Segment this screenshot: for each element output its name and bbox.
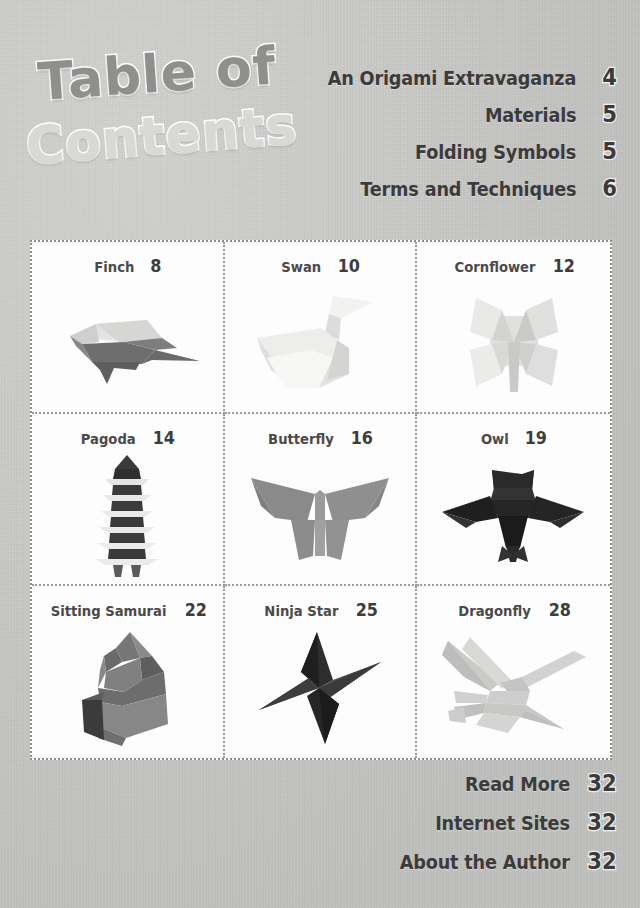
owl-origami-figure	[417, 450, 610, 580]
grid-cell-page: 25	[355, 600, 377, 620]
grid-cell-swan[interactable]: Swan 10	[225, 242, 418, 414]
project-grid: Finch 8 Swan 10	[30, 240, 612, 760]
grid-cell-page: 8	[150, 256, 161, 276]
toc-entry[interactable]: About the Author 32	[288, 848, 618, 874]
grid-cell-cornflower[interactable]: Cornflower 12	[417, 242, 610, 414]
grid-cell-butterfly[interactable]: Butterfly 16	[225, 414, 418, 586]
pagoda-origami-figure	[32, 450, 223, 580]
grid-cell-page: 22	[185, 600, 207, 620]
grid-cell-label: Ninja Star 25	[225, 600, 416, 620]
toc-entry[interactable]: Read More 32	[288, 770, 618, 796]
grid-cell-name: Pagoda	[81, 431, 136, 447]
grid-cell-label: Dragonfly 28	[417, 600, 610, 620]
dragonfly-origami-figure	[417, 622, 610, 754]
grid-cell-sitting-samurai[interactable]: Sitting Samurai 22	[32, 586, 225, 758]
cornflower-origami-figure	[417, 278, 610, 408]
grid-cell-name: Cornflower	[454, 259, 535, 275]
grid-cell-page: 12	[553, 256, 575, 276]
grid-cell-pagoda[interactable]: Pagoda 14	[32, 414, 225, 586]
toc-entry-label: Folding Symbols	[415, 141, 576, 163]
toc-entry-label: Internet Sites	[435, 812, 570, 834]
page-title: Table of Contents	[26, 52, 316, 212]
toc-entry-label: Read More	[465, 773, 570, 795]
grid-cell-name: Ninja Star	[264, 603, 338, 619]
grid-cell-label: Pagoda 14	[32, 428, 223, 448]
toc-entry[interactable]: An Origami Extravaganza 4	[288, 64, 618, 90]
toc-entry-page: 5	[593, 101, 617, 127]
page-title-line-1: Table of	[36, 35, 278, 111]
toc-entry-label: About the Author	[400, 851, 570, 873]
grid-cell-ninja-star[interactable]: Ninja Star 25	[225, 586, 418, 758]
toc-page: Table of Contents An Origami Extravaganz…	[0, 0, 640, 908]
toc-entry[interactable]: Materials 5	[288, 101, 618, 127]
grid-cell-label: Cornflower 12	[417, 256, 610, 276]
top-contents-list: An Origami Extravaganza 4 Materials 5 Fo…	[288, 64, 618, 212]
grid-cell-label: Finch 8	[32, 256, 223, 276]
butterfly-origami-figure	[225, 450, 416, 580]
grid-cell-name: Owl	[481, 431, 509, 447]
finch-origami-figure	[32, 278, 223, 408]
grid-cell-page: 14	[153, 428, 175, 448]
toc-entry-page: 6	[593, 175, 617, 201]
toc-entry-page: 32	[587, 770, 616, 796]
grid-cell-finch[interactable]: Finch 8	[32, 242, 225, 414]
toc-entry-label: An Origami Extravaganza	[328, 67, 576, 89]
sitting-samurai-origami-figure	[32, 622, 223, 754]
page-title-line-2: Contents	[24, 95, 300, 176]
grid-cell-owl[interactable]: Owl 19	[417, 414, 610, 586]
grid-cell-label: Swan 10	[225, 256, 416, 276]
grid-cell-page: 28	[548, 600, 570, 620]
ninja-star-origami-figure	[225, 622, 416, 754]
toc-entry[interactable]: Folding Symbols 5	[288, 138, 618, 164]
toc-entry-page: 32	[587, 848, 616, 874]
bottom-contents-list: Read More 32 Internet Sites 32 About the…	[288, 770, 618, 887]
grid-cell-name: Swan	[281, 259, 321, 275]
grid-cell-dragonfly[interactable]: Dragonfly 28	[417, 586, 610, 758]
toc-entry-page: 4	[593, 64, 617, 90]
toc-entry[interactable]: Terms and Techniques 6	[288, 175, 618, 201]
grid-cell-label: Sitting Samurai 22	[32, 600, 223, 620]
grid-cell-name: Butterfly	[268, 431, 334, 447]
grid-cell-name: Finch	[94, 259, 134, 275]
grid-cell-page: 10	[337, 256, 359, 276]
grid-cell-label: Butterfly 16	[225, 428, 416, 448]
toc-entry-label: Materials	[484, 104, 576, 126]
grid-cell-page: 19	[525, 428, 547, 448]
toc-entry[interactable]: Internet Sites 32	[288, 809, 618, 835]
toc-entry-page: 32	[587, 809, 616, 835]
swan-origami-figure	[225, 278, 416, 408]
grid-cell-page: 16	[351, 428, 373, 448]
grid-cell-name: Dragonfly	[458, 603, 530, 619]
toc-entry-page: 5	[593, 138, 617, 164]
grid-cell-label: Owl 19	[417, 428, 610, 448]
grid-cell-name: Sitting Samurai	[50, 603, 166, 619]
toc-entry-label: Terms and Techniques	[360, 178, 576, 200]
